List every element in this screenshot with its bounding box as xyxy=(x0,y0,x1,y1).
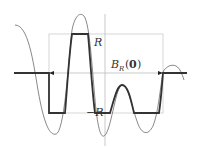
label-minus-R: −R xyxy=(86,106,104,119)
svg-text:R: R xyxy=(118,65,125,73)
label-ball: B R ( 0 ) xyxy=(110,58,141,73)
label-R: R xyxy=(93,36,102,49)
svg-text:): ) xyxy=(137,58,141,71)
svg-text:B: B xyxy=(110,58,119,71)
truncation-diagram: R −R B R ( 0 ) xyxy=(0,0,197,148)
svg-text:0: 0 xyxy=(129,58,137,71)
